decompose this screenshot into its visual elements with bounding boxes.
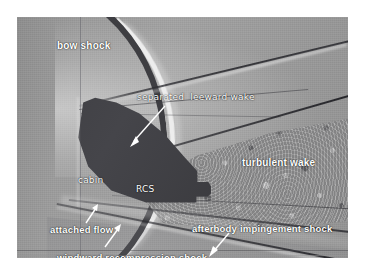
label-separated-leeward-wake: separated leeward wake <box>137 93 255 102</box>
attached-flow-arrow <box>83 203 101 225</box>
label-cabin: cabin <box>78 176 103 185</box>
separated-leeward-wake-arrow <box>125 103 169 149</box>
capsule-body-silhouette <box>17 17 348 258</box>
capsule-leading-edge-glow <box>77 97 79 208</box>
label-afterbody-impingement-shock: afterbody impingement shock <box>192 224 333 234</box>
label-attached-flow: attached flow <box>50 225 113 235</box>
photograph-plate: bow shock separated leeward wake turbule… <box>17 17 348 258</box>
label-turbulent-wake: turbulent wake <box>242 158 315 168</box>
vehicle-silhouette-group <box>17 17 348 258</box>
plate-bottom-reference-line <box>17 250 348 251</box>
schlieren-figure: bow shock separated leeward wake turbule… <box>0 0 365 274</box>
label-rcs: RCS <box>136 185 154 194</box>
afterbody-impingement-shock-arrow <box>205 231 233 258</box>
label-bow-shock: bow shock <box>57 41 110 51</box>
label-windward-recompression-shock: windward recompression shock <box>57 253 207 258</box>
